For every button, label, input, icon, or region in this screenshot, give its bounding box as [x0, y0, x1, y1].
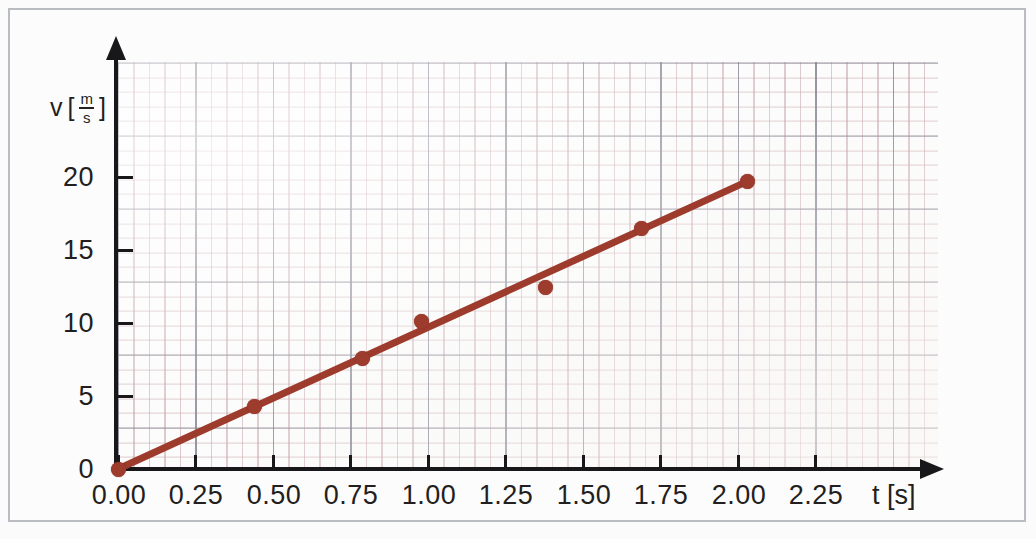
y-tick-5 — [118, 395, 133, 398]
x-tick-1.00 — [427, 455, 430, 469]
y-axis-unit-fraction: m s — [79, 91, 94, 125]
x-tick-1.75 — [659, 455, 662, 469]
x-axis-line — [114, 467, 925, 471]
y-tick-15 — [118, 249, 133, 252]
x-tick-2.25 — [814, 455, 817, 469]
figure-page: 0 5 10 15 20 v [ m s ] 0.00 0.25 0.50 — [0, 0, 1036, 539]
grid-major — [118, 62, 938, 469]
x-tick-label-2.25: 2.25 — [761, 480, 871, 511]
y-tick-10 — [118, 322, 133, 325]
y-tick-label-15: 15 — [48, 235, 94, 266]
y-tick-label-10: 10 — [48, 308, 94, 339]
y-axis-title: v [ m s ] — [50, 90, 106, 124]
x-tick-2.00 — [737, 455, 740, 469]
x-axis-arrowhead-icon — [920, 459, 944, 479]
grid-container — [118, 62, 938, 469]
x-tick-0.00 — [117, 455, 120, 469]
y-tick-label-5: 5 — [48, 381, 94, 412]
x-axis-title: t [s] — [872, 480, 916, 511]
x-tick-0.50 — [272, 455, 275, 469]
y-axis-bracket-open: [ — [68, 93, 75, 122]
x-tick-0.75 — [349, 455, 352, 469]
x-tick-1.25 — [504, 455, 507, 469]
y-axis-unit-numerator: m — [79, 91, 94, 106]
y-axis-line — [114, 54, 118, 471]
y-tick-20 — [118, 176, 133, 179]
y-axis-arrowhead-icon — [106, 36, 126, 60]
x-tick-1.50 — [582, 455, 585, 469]
y-axis-unit-denominator: s — [82, 110, 92, 125]
y-axis-bracket-close: ] — [99, 93, 106, 122]
x-tick-0.25 — [194, 455, 197, 469]
y-axis-symbol: v — [50, 93, 63, 122]
y-tick-label-20: 20 — [48, 162, 94, 193]
y-tick-0 — [118, 468, 133, 471]
plot-area — [118, 62, 938, 469]
figure-frame: 0 5 10 15 20 v [ m s ] 0.00 0.25 0.50 — [8, 8, 1026, 522]
